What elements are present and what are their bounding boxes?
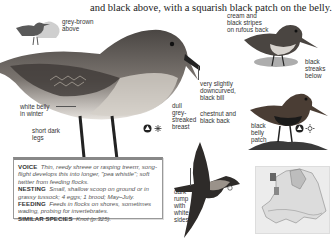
label-short-legs: short dark legs <box>32 127 60 141</box>
voice-entry: VOICE Thin, reedy shreee or rasping tree… <box>18 163 158 185</box>
distribution-map <box>255 166 330 234</box>
leader-line <box>190 168 191 186</box>
nesting-entry: NESTING Small, shallow scoop on ground o… <box>18 185 158 200</box>
label-breast: dull grey- streaked breast <box>172 102 196 130</box>
snowflake-icon <box>155 125 162 132</box>
leader-line <box>198 66 199 80</box>
intro-text: and black above, with a squarish black p… <box>90 2 332 13</box>
breeding-plumage-icon <box>296 125 304 133</box>
label-grey-brown-above: grey-brown above <box>62 18 94 32</box>
winter-plumage-icon <box>144 125 152 133</box>
label-dark-rump: dark rump with white sides <box>174 188 189 223</box>
label-bill: very slightly downcurved, black bill <box>200 80 236 101</box>
label-chestnut-back: chestnut and black back <box>200 110 236 124</box>
species-info-box: VOICE Thin, reedy shreee or rasping tree… <box>13 157 163 219</box>
label-juvenile-back: cream and black stripes on rufous back <box>227 12 268 33</box>
feeding-entry: FEEDING Feeds in flocks on shores, somet… <box>18 200 158 215</box>
leader-line <box>56 106 76 107</box>
label-black-streaks-below: black streaks below <box>305 58 325 79</box>
season-icons-breeding <box>295 124 317 134</box>
similar-species-entry: SIMILAR SPECIES Knot (p.325). <box>18 215 158 222</box>
season-icons-winter <box>143 124 165 134</box>
label-black-belly-patch: black belly patch <box>251 122 266 143</box>
label-white-belly: white belly in winter <box>20 103 49 117</box>
europe-map-icon <box>256 167 329 233</box>
sun-icon <box>306 124 315 133</box>
